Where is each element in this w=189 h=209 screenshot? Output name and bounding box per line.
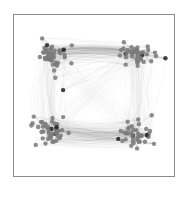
graph-node — [125, 120, 129, 124]
graph-node — [54, 125, 58, 129]
graph-node — [47, 129, 51, 133]
graph-node — [43, 141, 47, 145]
graph-node — [50, 119, 54, 123]
graph-node — [34, 143, 38, 147]
graph-node — [57, 136, 61, 140]
graph-node — [126, 131, 130, 135]
graph-node — [135, 48, 139, 52]
graph-node — [143, 140, 147, 144]
graph-node — [124, 62, 128, 66]
graph-node — [38, 55, 42, 59]
graph-node — [131, 141, 135, 145]
graph-node — [53, 76, 57, 80]
graph-node — [49, 46, 53, 50]
graph-node — [120, 139, 124, 143]
graph-node — [60, 128, 64, 132]
graph-node — [127, 125, 131, 129]
graph-node — [50, 139, 54, 143]
graph-node — [136, 59, 140, 63]
graph-node — [32, 114, 36, 118]
graph-node — [142, 60, 146, 64]
graph-node — [139, 51, 143, 55]
graph-node — [135, 64, 139, 68]
graph-node — [62, 52, 66, 56]
graph-node — [152, 142, 156, 146]
graph-node — [135, 146, 139, 150]
network-graph — [0, 0, 189, 209]
graph-node — [136, 131, 140, 135]
graph-node — [61, 88, 65, 92]
graph-node — [54, 60, 58, 64]
graph-node — [153, 50, 157, 54]
graph-node — [69, 61, 73, 65]
graph-node — [50, 132, 54, 136]
graph-node — [66, 131, 70, 135]
graph-node — [130, 132, 134, 136]
graph-node — [144, 133, 148, 137]
graph-node — [163, 56, 167, 60]
graph-node — [148, 129, 152, 133]
graph-node — [41, 136, 45, 140]
graph-node — [116, 137, 120, 141]
graph-node — [119, 129, 123, 133]
graph-node — [146, 44, 150, 48]
graph-node — [45, 49, 49, 53]
graph-node — [61, 115, 65, 119]
graph-node — [125, 48, 129, 52]
graph-node — [41, 50, 45, 54]
graph-node — [144, 127, 148, 131]
graph-node — [137, 122, 141, 126]
graph-node — [52, 68, 56, 72]
graph-node — [52, 52, 56, 56]
graph-node — [70, 43, 74, 47]
graph-node — [62, 48, 66, 52]
graph-node — [36, 125, 40, 129]
graph-node — [58, 51, 62, 55]
graph-node — [46, 125, 50, 129]
graph-node — [45, 43, 49, 47]
graph-node — [124, 55, 128, 59]
graph-node — [29, 123, 33, 127]
graph-node — [40, 120, 44, 124]
graph-node — [136, 117, 140, 121]
graph-node — [122, 40, 126, 44]
graph-node — [150, 113, 154, 117]
graph-node — [43, 56, 47, 60]
graph-node — [130, 54, 134, 58]
graph-node — [149, 59, 153, 63]
graph-node — [41, 129, 45, 133]
graph-node — [145, 52, 149, 56]
graph-node — [118, 53, 122, 57]
graph-node — [40, 36, 44, 40]
graph-node — [137, 139, 141, 143]
graph-node — [121, 46, 125, 50]
graph-node — [135, 54, 139, 58]
